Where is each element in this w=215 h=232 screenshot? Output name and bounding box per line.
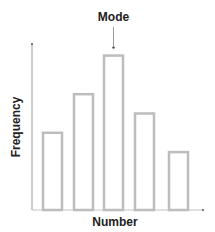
bar-4	[135, 113, 154, 210]
y-axis-end-dot	[31, 43, 33, 45]
bars	[43, 56, 188, 210]
bar-2	[74, 94, 93, 210]
mode-annotation-label: Mode	[98, 10, 130, 24]
mode-bar-chart: Mode Frequency Number	[0, 0, 215, 232]
x-axis-label: Number	[92, 215, 138, 229]
mode-arrow-head	[112, 46, 114, 48]
bar-5	[169, 152, 188, 210]
bar-1	[43, 133, 62, 210]
y-axis-label: Frequency	[9, 96, 23, 157]
bar-3	[104, 56, 123, 210]
x-axis-end-dot	[202, 209, 204, 211]
